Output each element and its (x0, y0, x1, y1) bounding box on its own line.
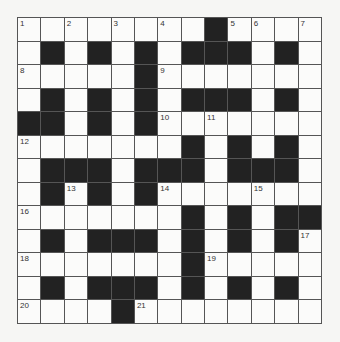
answer-cell[interactable] (41, 18, 64, 42)
answer-cell[interactable] (112, 112, 135, 136)
answer-cell[interactable] (112, 253, 135, 277)
answer-cell[interactable] (299, 300, 322, 324)
answer-cell[interactable] (158, 206, 181, 230)
answer-cell[interactable] (158, 89, 181, 113)
answer-cell[interactable] (112, 159, 135, 183)
answer-cell[interactable] (228, 112, 251, 136)
answer-cell[interactable] (228, 253, 251, 277)
answer-cell[interactable] (252, 206, 275, 230)
answer-cell[interactable] (112, 136, 135, 160)
answer-cell[interactable] (65, 42, 88, 66)
answer-cell[interactable]: 2 (65, 18, 88, 42)
answer-cell[interactable]: 14 (158, 183, 181, 207)
answer-cell[interactable] (88, 253, 111, 277)
answer-cell[interactable] (299, 253, 322, 277)
answer-cell[interactable] (299, 277, 322, 301)
answer-cell[interactable] (252, 112, 275, 136)
answer-cell[interactable] (135, 206, 158, 230)
answer-cell[interactable] (182, 18, 205, 42)
answer-cell[interactable] (41, 65, 64, 89)
answer-cell[interactable] (135, 253, 158, 277)
answer-cell[interactable] (18, 42, 41, 66)
answer-cell[interactable] (275, 253, 298, 277)
answer-cell[interactable] (205, 277, 228, 301)
answer-cell[interactable] (65, 277, 88, 301)
answer-cell[interactable] (252, 65, 275, 89)
answer-cell[interactable] (158, 230, 181, 254)
answer-cell[interactable] (205, 206, 228, 230)
answer-cell[interactable]: 17 (299, 230, 322, 254)
answer-cell[interactable] (18, 89, 41, 113)
answer-cell[interactable] (252, 300, 275, 324)
answer-cell[interactable] (65, 206, 88, 230)
answer-cell[interactable] (299, 183, 322, 207)
answer-cell[interactable] (18, 277, 41, 301)
answer-cell[interactable] (205, 65, 228, 89)
answer-cell[interactable] (65, 112, 88, 136)
answer-cell[interactable] (158, 253, 181, 277)
answer-cell[interactable] (41, 136, 64, 160)
answer-cell[interactable] (275, 18, 298, 42)
answer-cell[interactable] (182, 300, 205, 324)
answer-cell[interactable] (182, 183, 205, 207)
answer-cell[interactable]: 11 (205, 112, 228, 136)
answer-cell[interactable] (252, 136, 275, 160)
answer-cell[interactable] (228, 65, 251, 89)
answer-cell[interactable] (41, 206, 64, 230)
answer-cell[interactable] (275, 183, 298, 207)
answer-cell[interactable]: 5 (228, 18, 251, 42)
answer-cell[interactable] (252, 253, 275, 277)
answer-cell[interactable]: 21 (135, 300, 158, 324)
answer-cell[interactable]: 19 (205, 253, 228, 277)
answer-cell[interactable] (112, 65, 135, 89)
answer-cell[interactable] (158, 42, 181, 66)
answer-cell[interactable] (18, 230, 41, 254)
answer-cell[interactable] (18, 159, 41, 183)
answer-cell[interactable] (228, 183, 251, 207)
answer-cell[interactable] (88, 300, 111, 324)
answer-cell[interactable] (112, 42, 135, 66)
answer-cell[interactable] (299, 112, 322, 136)
answer-cell[interactable] (41, 253, 64, 277)
answer-cell[interactable] (65, 230, 88, 254)
answer-cell[interactable] (65, 65, 88, 89)
answer-cell[interactable]: 8 (18, 65, 41, 89)
answer-cell[interactable]: 10 (158, 112, 181, 136)
answer-cell[interactable] (112, 183, 135, 207)
answer-cell[interactable] (205, 136, 228, 160)
answer-cell[interactable] (182, 65, 205, 89)
answer-cell[interactable] (158, 300, 181, 324)
answer-cell[interactable] (205, 183, 228, 207)
answer-cell[interactable]: 13 (65, 183, 88, 207)
answer-cell[interactable] (252, 230, 275, 254)
answer-cell[interactable]: 16 (18, 206, 41, 230)
answer-cell[interactable] (41, 300, 64, 324)
answer-cell[interactable] (158, 277, 181, 301)
answer-cell[interactable] (88, 136, 111, 160)
answer-cell[interactable]: 18 (18, 253, 41, 277)
answer-cell[interactable] (252, 89, 275, 113)
answer-cell[interactable] (88, 65, 111, 89)
answer-cell[interactable] (275, 300, 298, 324)
answer-cell[interactable] (182, 112, 205, 136)
answer-cell[interactable] (299, 89, 322, 113)
answer-cell[interactable] (135, 18, 158, 42)
answer-cell[interactable] (299, 136, 322, 160)
answer-cell[interactable] (112, 206, 135, 230)
answer-cell[interactable]: 6 (252, 18, 275, 42)
answer-cell[interactable] (252, 277, 275, 301)
answer-cell[interactable] (112, 89, 135, 113)
answer-cell[interactable]: 20 (18, 300, 41, 324)
answer-cell[interactable]: 4 (158, 18, 181, 42)
answer-cell[interactable] (65, 300, 88, 324)
answer-cell[interactable] (299, 159, 322, 183)
answer-cell[interactable] (65, 253, 88, 277)
answer-cell[interactable] (275, 112, 298, 136)
answer-cell[interactable] (299, 42, 322, 66)
answer-cell[interactable] (65, 89, 88, 113)
answer-cell[interactable]: 7 (299, 18, 322, 42)
answer-cell[interactable] (252, 42, 275, 66)
answer-cell[interactable] (135, 136, 158, 160)
answer-cell[interactable] (158, 136, 181, 160)
answer-cell[interactable] (88, 18, 111, 42)
